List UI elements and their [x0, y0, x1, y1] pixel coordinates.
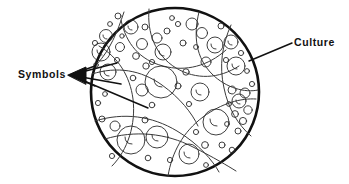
symbol-dot [115, 13, 121, 19]
culture-label: Culture [294, 36, 335, 48]
figure-canvas: Symbols Culture [0, 0, 349, 184]
symbol-dot [108, 22, 113, 27]
symbol-circle [100, 30, 113, 43]
symbol-hook [103, 35, 107, 39]
symbol-dot [109, 153, 114, 158]
culture-symbols-diagram [0, 0, 349, 184]
symbols-arrowhead [68, 67, 86, 84]
culture-leader-line [249, 43, 292, 61]
symbols-label: Symbols [18, 68, 66, 80]
